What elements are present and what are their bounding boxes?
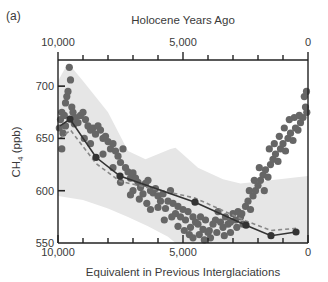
data-point <box>127 191 134 198</box>
bottom-axis-tick-label: 0 <box>305 246 311 258</box>
data-point <box>58 145 65 152</box>
data-point <box>99 151 106 158</box>
trend-marker <box>116 173 123 180</box>
data-point <box>206 227 213 234</box>
data-point <box>184 208 191 215</box>
data-point <box>136 196 143 203</box>
data-point <box>279 140 286 147</box>
data-point <box>82 116 89 123</box>
bottom-axis-tick-label: 5,000 <box>169 246 197 258</box>
data-point <box>256 164 263 171</box>
data-point <box>168 213 175 220</box>
top-axis-tick-label: 0 <box>305 36 311 48</box>
data-point <box>143 200 150 207</box>
y-axis-tick-label: 650 <box>36 132 54 144</box>
data-point <box>162 205 169 212</box>
data-point <box>266 145 273 152</box>
data-point <box>287 130 294 137</box>
data-point <box>303 88 310 95</box>
data-point <box>144 177 151 184</box>
data-point <box>221 232 228 239</box>
y-axis-tick-label: 600 <box>36 185 54 197</box>
data-point <box>174 223 181 230</box>
data-point <box>289 137 296 144</box>
data-point <box>187 224 194 231</box>
data-point <box>264 174 271 181</box>
top-axis-tick-label: 10,000 <box>41 36 75 48</box>
data-point <box>117 159 124 166</box>
trend-marker <box>92 154 99 161</box>
data-point <box>303 109 310 116</box>
y-axis-tick-label: 550 <box>36 237 54 249</box>
y-axis-title: CH4 (ppb) <box>10 126 25 177</box>
data-point <box>182 216 189 223</box>
top-axis-title: Holocene Years Ago <box>131 14 235 26</box>
trend-marker <box>242 222 249 229</box>
data-point <box>261 187 268 194</box>
y-axis-tick-label: 700 <box>36 80 54 92</box>
data-point <box>114 153 121 160</box>
data-point <box>244 198 251 205</box>
trend-marker <box>66 116 73 123</box>
data-point <box>251 177 258 184</box>
data-point <box>97 127 104 134</box>
data-point <box>117 179 124 186</box>
data-point <box>74 119 81 126</box>
data-point <box>194 221 201 228</box>
data-point <box>247 206 254 213</box>
data-point <box>227 229 234 236</box>
data-point <box>233 224 240 231</box>
trend-marker <box>191 199 198 206</box>
data-point <box>213 229 220 236</box>
data-point <box>274 158 281 165</box>
data-point <box>238 210 245 217</box>
data-point <box>294 127 301 134</box>
data-point <box>79 109 86 116</box>
panel-label: (a) <box>6 9 21 23</box>
data-point <box>67 76 74 83</box>
methane-chart: (a) Holocene Years Ago 10,0005,000010,00… <box>0 0 328 282</box>
data-point <box>64 88 71 95</box>
data-point <box>157 198 164 205</box>
y-axis-title-unit: (ppb) <box>10 126 22 156</box>
data-point <box>189 234 196 241</box>
data-point <box>109 140 116 147</box>
data-point <box>161 216 168 223</box>
data-point <box>276 133 283 140</box>
data-point <box>66 64 73 71</box>
data-point <box>246 187 253 194</box>
data-point <box>272 151 279 158</box>
data-point <box>147 206 154 213</box>
data-point <box>296 112 303 119</box>
data-point <box>119 145 126 152</box>
data-point <box>202 216 209 223</box>
x-axis-title: Equivalent in Previous Interglaciations <box>86 266 281 278</box>
data-point <box>154 204 161 211</box>
trend-marker <box>267 232 274 239</box>
data-point <box>262 166 269 173</box>
data-point <box>281 124 288 131</box>
trend-marker <box>292 228 299 235</box>
y-axis-title-main: CH <box>10 161 22 178</box>
data-point <box>196 231 203 238</box>
data-point <box>271 140 278 147</box>
data-point <box>62 99 69 106</box>
data-point <box>282 147 289 154</box>
top-axis-tick-label: 5,000 <box>169 36 197 48</box>
